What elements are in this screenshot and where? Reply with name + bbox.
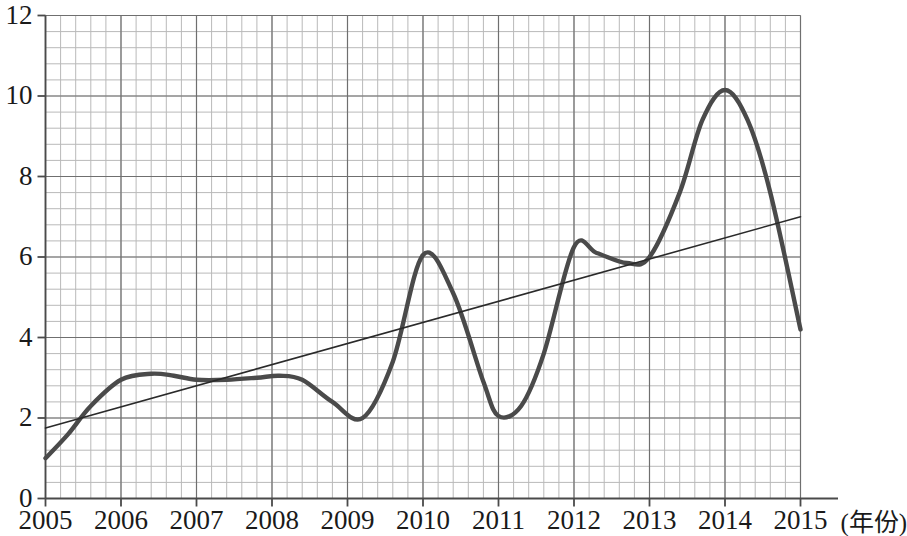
y-axis-tick-label: 4 [19,324,33,351]
x-axis-tick-label: 2015 [756,507,846,534]
y-axis-tick-label: 12 [6,2,33,29]
y-axis-tick-label: 8 [19,163,33,190]
y-axis-tick-label: 10 [6,82,33,109]
y-axis-tick-label: 6 [19,243,33,270]
x-axis-unit-label: (年份) [841,509,907,536]
y-axis-tick-label: 2 [19,404,33,431]
